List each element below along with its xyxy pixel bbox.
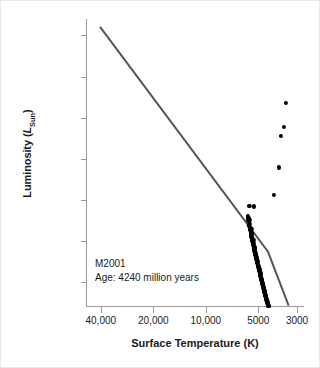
x-axis-tick-label: 5000	[247, 315, 269, 326]
y-axis-title: Luminosity (LSun)	[21, 74, 36, 234]
x-axis-title: Surface Temperature (K)	[86, 337, 304, 349]
x-axis-tick-label: 10,000	[191, 315, 222, 326]
y-axis-tick	[81, 282, 87, 283]
x-axis-tick	[153, 307, 154, 313]
cluster-name-text: M2001	[95, 257, 199, 271]
y-axis-tick	[81, 35, 87, 36]
plot-area: 100,00010,00010001001010.140,00020,00010…	[86, 19, 304, 307]
x-axis-tick-label: 20,000	[138, 315, 169, 326]
cluster-annotation: M2001 Age: 4240 million years	[95, 257, 199, 285]
x-axis-tick	[297, 307, 298, 313]
x-axis-tick-label: 40,000	[86, 315, 117, 326]
hr-diagram-figure: Luminosity (LSun) 100,00010,000100010010…	[0, 0, 320, 368]
x-axis-tick-label: 3000	[286, 315, 308, 326]
x-axis-tick	[101, 307, 102, 313]
y-axis-tick	[81, 159, 87, 160]
y-axis-tick	[81, 77, 87, 78]
star-data-point	[267, 304, 271, 308]
y-axis-tick	[81, 241, 87, 242]
x-axis-tick	[258, 307, 259, 313]
y-axis-tick	[81, 200, 87, 201]
x-axis-tick	[206, 307, 207, 313]
y-axis-tick	[81, 118, 87, 119]
cluster-age-text: Age: 4240 million years	[95, 271, 199, 285]
